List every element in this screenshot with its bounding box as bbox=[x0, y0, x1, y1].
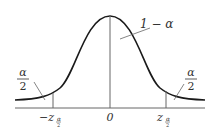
right-critical-sub-num: α bbox=[166, 115, 170, 122]
left-critical-sub-den: 2 bbox=[57, 122, 60, 128]
left-tail-denominator: 2 bbox=[20, 80, 27, 93]
center-tick-label: 0 bbox=[107, 111, 114, 124]
right-tail-denominator: 2 bbox=[188, 80, 195, 93]
right-critical-sub-den: 2 bbox=[166, 122, 169, 128]
left-critical-sub-num: α bbox=[57, 115, 61, 122]
left-tail-numerator: α bbox=[19, 66, 27, 79]
center-region-label: 1 − α bbox=[140, 17, 173, 31]
normal-distribution-diagram: 1 − α α 2 α 2 0 −z α 2 z α 2 bbox=[0, 0, 215, 138]
left-critical-label: −z bbox=[39, 111, 54, 124]
right-critical-label: z bbox=[156, 111, 163, 124]
right-tail-numerator: α bbox=[187, 66, 195, 79]
